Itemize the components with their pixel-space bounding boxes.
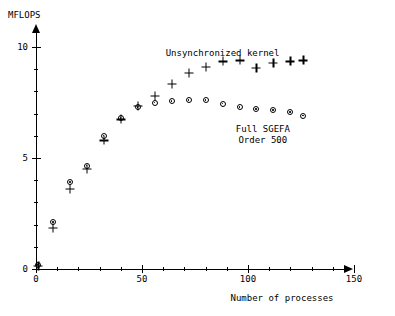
x-tick-minor	[312, 267, 313, 271]
data-point-plus	[286, 57, 295, 66]
chart-figure: 050100150 0510 Unsynchronized kernelFull…	[0, 0, 395, 316]
data-point-circle	[186, 97, 192, 103]
y-axis-arrow-icon	[32, 24, 40, 33]
x-tick-label: 50	[137, 274, 148, 284]
x-tick-minor	[290, 267, 291, 271]
data-point-circle	[67, 179, 73, 185]
x-axis-label: Number of processes	[231, 293, 334, 303]
y-tick-major	[32, 47, 41, 48]
x-tick-minor	[333, 267, 334, 271]
data-point-circle	[300, 113, 306, 119]
x-tick-major	[142, 265, 143, 273]
y-tick-minor	[34, 91, 38, 92]
data-point-plus	[167, 79, 176, 88]
data-point-circle	[118, 115, 124, 121]
data-point-circle	[101, 133, 107, 139]
y-tick-minor	[34, 180, 38, 181]
data-point-plus	[184, 68, 193, 77]
y-tick-label: 5	[6, 153, 28, 163]
data-point-circle	[220, 101, 226, 107]
x-axis-arrow-icon	[344, 265, 353, 273]
x-tick-minor	[227, 267, 228, 271]
data-point-plus	[269, 58, 278, 67]
y-tick-minor	[34, 247, 38, 248]
x-tick-minor	[184, 267, 185, 271]
x-tick-minor	[100, 267, 101, 271]
data-point-plus	[252, 64, 261, 73]
y-tick-label: 10	[6, 42, 28, 52]
x-tick-minor	[206, 267, 207, 271]
y-axis-line	[36, 32, 37, 270]
data-point-circle	[169, 98, 175, 104]
chart-annotation: Order 500	[238, 135, 287, 146]
y-tick-major	[32, 158, 41, 159]
data-point-plus	[201, 62, 210, 71]
x-tick-minor	[121, 267, 122, 271]
data-point-circle	[135, 104, 141, 110]
x-tick-label: 100	[240, 274, 256, 284]
x-tick-major	[248, 265, 249, 273]
y-tick-minor	[34, 225, 38, 226]
chart-annotation: Full SGEFA	[236, 124, 290, 135]
x-tick-major	[354, 265, 355, 273]
y-axis-label: MFLOPS	[8, 10, 41, 20]
data-point-circle	[35, 262, 41, 268]
chart-annotation: Unsynchronized kernel	[166, 48, 280, 59]
y-tick-label: 0	[6, 264, 28, 274]
y-tick-minor	[34, 114, 38, 115]
data-point-circle	[203, 97, 209, 103]
x-tick-label: 0	[33, 274, 38, 284]
data-point-circle	[270, 107, 276, 113]
x-tick-minor	[57, 267, 58, 271]
y-tick-minor	[34, 202, 38, 203]
data-point-circle	[152, 100, 158, 106]
x-tick-minor	[269, 267, 270, 271]
data-point-circle	[50, 219, 56, 225]
y-tick-minor	[34, 136, 38, 137]
data-point-plus	[65, 185, 74, 194]
x-tick-minor	[163, 267, 164, 271]
data-point-plus	[299, 56, 308, 65]
data-point-circle	[237, 104, 243, 110]
data-point-circle	[253, 106, 259, 112]
data-point-circle	[84, 163, 90, 169]
x-axis-line	[36, 269, 346, 270]
x-tick-minor	[78, 267, 79, 271]
data-point-circle	[287, 109, 293, 115]
x-tick-label: 150	[346, 274, 362, 284]
y-tick-minor	[34, 69, 38, 70]
